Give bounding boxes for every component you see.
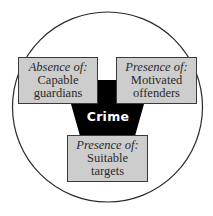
- box-capable-guardians: Absence of: Capable guardians: [18, 57, 98, 104]
- box-line: guardians: [34, 87, 83, 100]
- box-suitable-targets: Presence of: Suitable targets: [67, 135, 148, 182]
- crime-triangle-diagram: Crime Absence of: Capable guardians Pres…: [0, 0, 213, 216]
- box-line: targets: [91, 165, 124, 178]
- box-motivated-offenders: Presence of: Motivated offenders: [116, 57, 197, 104]
- box-line: offenders: [133, 87, 180, 100]
- diagram-background: [0, 0, 213, 216]
- crime-label: Crime: [72, 109, 144, 124]
